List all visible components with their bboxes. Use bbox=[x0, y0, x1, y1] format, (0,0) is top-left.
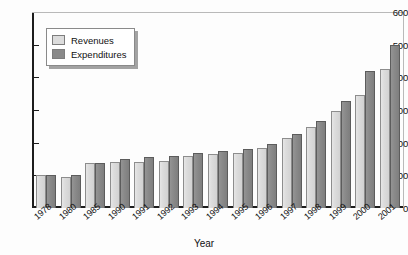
legend-swatch-rev bbox=[52, 35, 65, 45]
bar-expenditures bbox=[316, 121, 326, 208]
legend-label: Revenues bbox=[71, 35, 114, 46]
bar-revenues bbox=[380, 69, 390, 208]
bar-revenues bbox=[134, 162, 144, 208]
bar-revenues bbox=[110, 162, 120, 208]
bar-group bbox=[257, 12, 277, 208]
bar-revenues bbox=[159, 161, 169, 208]
legend-item: Revenues bbox=[52, 33, 126, 47]
bar-group bbox=[355, 12, 375, 208]
plot-frame-right bbox=[403, 12, 404, 208]
bar-revenues bbox=[306, 127, 316, 208]
chart-legend: RevenuesExpenditures bbox=[46, 28, 135, 66]
bar-revenues bbox=[331, 111, 341, 208]
bar-revenues bbox=[282, 138, 292, 208]
bar-revenues bbox=[233, 153, 243, 208]
bar-revenues bbox=[208, 154, 218, 208]
legend-swatch-exp bbox=[52, 49, 65, 59]
bar-expenditures bbox=[169, 156, 179, 208]
legend-label: Expenditures bbox=[71, 49, 126, 60]
bar-revenues bbox=[257, 148, 267, 208]
bar-group bbox=[331, 12, 351, 208]
bar-revenues bbox=[85, 163, 95, 208]
bar-expenditures bbox=[243, 149, 253, 208]
bar-group bbox=[208, 12, 228, 208]
x-axis-title: Year bbox=[0, 238, 408, 249]
bar-revenues bbox=[183, 156, 193, 208]
bar-revenues bbox=[355, 95, 365, 208]
bar-group bbox=[306, 12, 326, 208]
bar-expenditures bbox=[390, 45, 400, 208]
bar-chart: 0100200300400500600 19781980198519901991… bbox=[0, 0, 408, 255]
bar-expenditures bbox=[365, 71, 375, 208]
bar-expenditures bbox=[341, 101, 351, 208]
bar-expenditures bbox=[193, 153, 203, 208]
bar-expenditures bbox=[120, 159, 130, 208]
bar-expenditures bbox=[95, 163, 105, 208]
bar-group bbox=[134, 12, 154, 208]
bar-group bbox=[380, 12, 400, 208]
bar-group bbox=[282, 12, 302, 208]
bar-expenditures bbox=[218, 151, 228, 208]
bar-expenditures bbox=[144, 157, 154, 208]
bar-expenditures bbox=[267, 144, 277, 208]
bar-group bbox=[233, 12, 253, 208]
bar-expenditures bbox=[292, 134, 302, 208]
legend-item: Expenditures bbox=[52, 47, 126, 61]
bar-group bbox=[159, 12, 179, 208]
bar-group bbox=[183, 12, 203, 208]
